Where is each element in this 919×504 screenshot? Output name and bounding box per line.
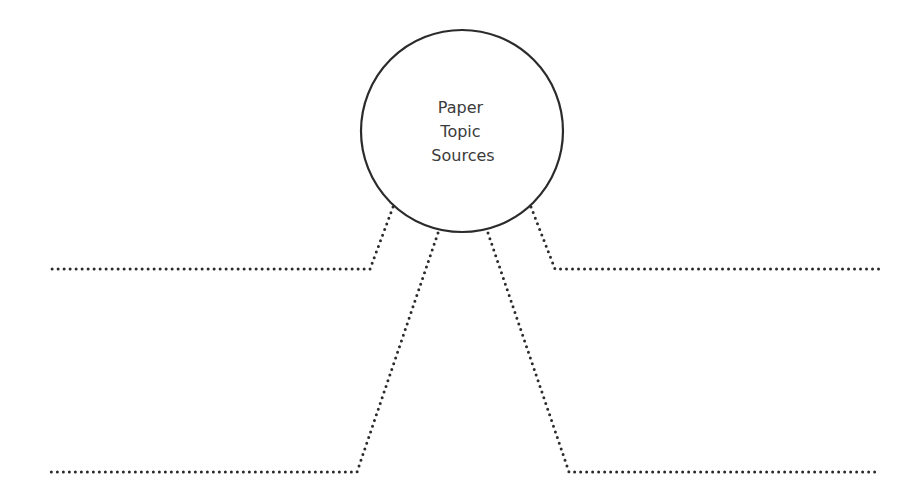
center-label-line-1: Paper: [438, 98, 484, 117]
center-label-line-3: Sources: [431, 146, 494, 165]
top-left-branch: [50, 207, 393, 269]
top-right-branch: [531, 207, 879, 269]
diagram-canvas: Paper Topic Sources: [0, 0, 919, 504]
center-label-line-2: Topic: [439, 122, 480, 141]
center-node-label: Paper Topic Sources: [431, 98, 494, 165]
bottom-right-branch: [488, 233, 879, 472]
branch-lines: [50, 207, 879, 472]
